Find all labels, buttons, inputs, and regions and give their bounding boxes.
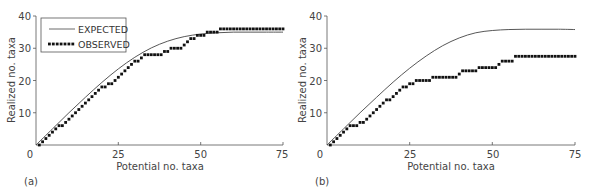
observed-point xyxy=(349,124,352,127)
observed-point xyxy=(362,121,365,124)
observed-point xyxy=(173,47,176,50)
observed-point xyxy=(147,53,150,56)
observed-point xyxy=(375,108,378,111)
observed-point xyxy=(464,69,467,72)
observed-point xyxy=(44,137,47,140)
x-tick-0: 0 xyxy=(317,149,323,160)
y-tick-10: 10 xyxy=(309,108,322,119)
observed-point xyxy=(156,53,159,56)
observed-point xyxy=(255,28,258,31)
observed-point xyxy=(345,127,348,130)
observed-point xyxy=(212,31,215,34)
observed-point xyxy=(527,55,530,58)
observed-point xyxy=(468,69,471,72)
observed-point xyxy=(54,127,57,130)
observed-point xyxy=(222,28,225,31)
x-tick-75: 75 xyxy=(569,149,582,160)
observed-point xyxy=(385,98,388,101)
expected-curve xyxy=(327,29,575,145)
observed-point xyxy=(560,55,563,58)
observed-point xyxy=(474,69,477,72)
observed-point xyxy=(143,53,146,56)
observed-point xyxy=(252,28,255,31)
observed-point xyxy=(77,108,80,111)
x-axis-label-a: Potential no. taxa xyxy=(116,161,204,172)
observed-point xyxy=(206,31,209,34)
observed-point xyxy=(402,86,405,89)
observed-point xyxy=(336,137,339,140)
observed-point xyxy=(425,79,428,82)
observed-point xyxy=(355,124,358,127)
observed-point xyxy=(329,144,332,147)
panel-label-a: (a) xyxy=(24,176,38,187)
y-axis-b: 40 30 20 10 Realized no. taxa xyxy=(297,11,327,145)
observed-point xyxy=(87,98,90,101)
observed-point xyxy=(388,98,391,101)
observed-point xyxy=(471,69,474,72)
x-tick-50: 50 xyxy=(194,149,207,160)
observed-point xyxy=(130,63,133,66)
observed-point xyxy=(268,28,271,31)
observed-point xyxy=(153,53,156,56)
observed-point xyxy=(219,28,222,31)
observed-point xyxy=(170,47,173,50)
observed-point xyxy=(564,55,567,58)
observed-point xyxy=(537,55,540,58)
observed-point xyxy=(547,55,550,58)
observed-point xyxy=(216,31,219,34)
observed-point xyxy=(478,66,481,69)
observed-point xyxy=(504,60,507,63)
observed-point xyxy=(265,28,268,31)
observed-point xyxy=(398,89,401,92)
observed-point xyxy=(418,79,421,82)
observed-point xyxy=(232,28,235,31)
observed-point xyxy=(544,55,547,58)
plot-area-b xyxy=(327,29,576,146)
legend: EXPECTED OBSERVED xyxy=(41,18,130,52)
observed-point xyxy=(531,55,534,58)
y-axis-a: 40 30 20 10 Realized no. taxa xyxy=(6,11,36,145)
observed-point xyxy=(137,60,140,63)
x-tick-0: 0 xyxy=(27,149,33,160)
y-axis-label-b: Realized no. taxa xyxy=(297,37,308,123)
observed-point xyxy=(242,28,245,31)
x-tick-75: 75 xyxy=(276,149,289,160)
observed-point xyxy=(365,118,368,121)
observed-point xyxy=(332,140,335,143)
observed-point xyxy=(61,124,64,127)
observed-point xyxy=(229,28,232,31)
observed-point xyxy=(71,115,74,118)
observed-point xyxy=(94,92,97,95)
observed-point xyxy=(180,47,183,50)
observed-point xyxy=(438,76,441,79)
observed-point xyxy=(458,73,461,76)
observed-point xyxy=(41,140,44,143)
observed-point xyxy=(494,66,497,69)
y-tick-40: 40 xyxy=(309,11,322,22)
y-tick-20: 20 xyxy=(309,76,322,87)
observed-point xyxy=(408,82,411,85)
observed-point xyxy=(81,105,84,108)
observed-point xyxy=(392,95,395,98)
observed-point xyxy=(100,86,103,89)
observed-point xyxy=(38,144,41,147)
observed-point xyxy=(554,55,557,58)
x-axis-label-b: Potential no. taxa xyxy=(407,161,495,172)
y-tick-30: 30 xyxy=(18,43,31,54)
observed-point xyxy=(259,28,262,31)
observed-point xyxy=(514,55,517,58)
observed-point xyxy=(395,92,398,95)
observed-point xyxy=(235,28,238,31)
observed-point xyxy=(435,76,438,79)
observed-point xyxy=(557,55,560,58)
observed-point xyxy=(382,102,385,105)
legend-dots-icon xyxy=(48,43,74,46)
x-axis-a: 0 25 50 75 Potential no. taxa xyxy=(27,142,289,172)
observed-point xyxy=(74,111,77,114)
observed-point xyxy=(372,111,375,114)
observed-point xyxy=(166,50,169,53)
observed-point xyxy=(488,66,491,69)
observed-point xyxy=(176,47,179,50)
observed-point xyxy=(282,28,285,31)
observed-points xyxy=(329,55,576,146)
